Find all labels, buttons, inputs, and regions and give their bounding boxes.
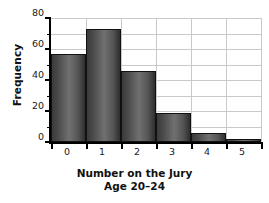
bar-1 — [86, 29, 121, 142]
y-tick-label: 60 — [32, 38, 44, 49]
gridline-vertical — [226, 18, 227, 142]
bar-0 — [51, 54, 86, 142]
plot-inner — [51, 18, 261, 142]
y-axis-tick-labels: 020406080 — [22, 12, 44, 142]
x-tick-label: 1 — [99, 146, 105, 157]
y-tick-label: 0 — [38, 131, 44, 142]
x-axis-tick-labels: 012345 — [49, 146, 261, 162]
y-tick-label: 80 — [32, 7, 44, 18]
y-tick-major — [45, 110, 51, 112]
y-tick-label: 20 — [32, 100, 44, 111]
y-tick-minor — [47, 127, 51, 128]
y-tick-label: 40 — [32, 69, 44, 80]
y-tick-major — [45, 17, 51, 19]
x-axis-title-main: Number on the Jury — [0, 167, 269, 180]
y-tick-minor — [47, 65, 51, 66]
x-tick-label: 2 — [134, 146, 140, 157]
bar-2 — [121, 71, 156, 142]
y-tick-major — [45, 48, 51, 50]
x-tick-label: 4 — [204, 146, 210, 157]
y-tick-major — [45, 79, 51, 81]
gridline-vertical — [191, 18, 192, 142]
y-tick-minor — [47, 96, 51, 97]
y-tick-minor — [47, 34, 51, 35]
x-tick-label: 0 — [64, 146, 70, 157]
gridline-vertical — [261, 18, 262, 142]
x-tick-label: 3 — [169, 146, 175, 157]
bar-3 — [156, 113, 191, 142]
bar-5 — [226, 139, 261, 142]
histogram-figure: Frequency 020406080 012345 Number on the… — [0, 0, 269, 203]
x-axis-title: Number on the Jury Age 20–24 — [0, 167, 269, 193]
plot-area — [49, 18, 261, 144]
x-axis-title-sub: Age 20–24 — [0, 180, 269, 193]
x-tick — [261, 142, 263, 149]
x-tick-label: 5 — [239, 146, 245, 157]
bar-4 — [191, 133, 226, 142]
